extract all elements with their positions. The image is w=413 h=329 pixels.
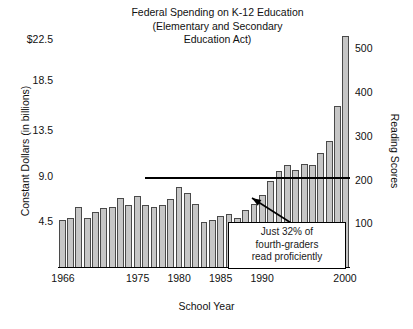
bar	[92, 212, 99, 267]
y-axis-left-tick-label: $22.5	[27, 33, 53, 45]
bar	[142, 205, 149, 267]
y-axis-left-tick-label: 9.0	[38, 170, 53, 182]
bar	[184, 193, 191, 267]
bar	[67, 218, 74, 267]
bar	[100, 208, 107, 267]
y-axis-right-tick-label: 200	[355, 174, 373, 186]
bar	[84, 218, 91, 267]
y-axis-left-title: Constant Dollars (in billions)	[19, 56, 31, 246]
x-axis-tick-label: 1980	[167, 272, 190, 284]
bar	[117, 198, 124, 267]
bar	[217, 216, 224, 267]
bar	[109, 207, 116, 267]
callout-line-1: Just 32% of	[231, 226, 343, 239]
y-axis-left-tick-label: 18.5	[33, 74, 53, 86]
bar	[176, 187, 183, 267]
bar	[167, 199, 174, 267]
x-axis-tick-label: 2000	[333, 272, 356, 284]
y-axis-right-tick-label: 400	[355, 86, 373, 98]
chart-figure: Federal Spending on K-12 Education (Elem…	[0, 0, 413, 329]
reading-proficiency-callout: Just 32% of fourth-graders read proficie…	[228, 222, 346, 269]
x-axis-tick-label: 1966	[51, 272, 74, 284]
reading-score-line	[145, 177, 350, 179]
y-axis-right-tick-label: 500	[355, 42, 373, 54]
y-axis-right-title: Reading Scores	[389, 56, 401, 246]
y-axis-left-tick-label: 13.5	[33, 124, 53, 136]
bar	[209, 220, 216, 267]
bar	[201, 222, 208, 267]
bar	[125, 205, 132, 267]
x-axis-ticks: 196619751980198519902000	[0, 272, 413, 290]
x-axis-tick-label: 1975	[126, 272, 149, 284]
bar	[75, 207, 82, 267]
y-axis-left-tick-label: 4.5	[38, 215, 53, 227]
callout-line-3: read proficiently	[231, 251, 343, 264]
bar	[192, 204, 199, 267]
bar	[151, 207, 158, 267]
callout-line-2: fourth-graders	[231, 239, 343, 252]
bar	[134, 196, 141, 267]
y-axis-right-tick-label: 300	[355, 130, 373, 142]
x-axis-tick-label: 1990	[250, 272, 273, 284]
bar	[59, 220, 66, 267]
bar	[159, 205, 166, 267]
y-axis-right-tick-label: 100	[355, 217, 373, 229]
x-axis-tick-label: 1985	[209, 272, 232, 284]
chart-title-line-1: Federal Spending on K-12 Education	[95, 6, 340, 20]
x-axis-title: School Year	[0, 300, 413, 312]
